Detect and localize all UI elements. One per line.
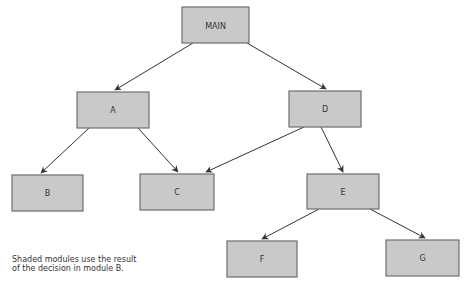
edge-main-a bbox=[115, 43, 193, 90]
module-b: B bbox=[12, 175, 83, 211]
edge-d-e bbox=[321, 127, 343, 172]
module-e-label: E bbox=[340, 188, 345, 197]
module-a: A bbox=[77, 92, 149, 128]
module-a-label: A bbox=[110, 106, 116, 115]
edge-e-f bbox=[262, 209, 319, 239]
edge-main-d bbox=[247, 43, 326, 89]
module-c: C bbox=[140, 174, 214, 210]
module-b-label: B bbox=[45, 189, 51, 198]
legend-note: Shaded modules use the result of the dec… bbox=[12, 255, 136, 273]
edge-e-g bbox=[370, 209, 425, 238]
edge-a-b bbox=[41, 128, 89, 173]
legend-note-line-1: Shaded modules use the result bbox=[12, 255, 136, 264]
module-g: G bbox=[386, 240, 459, 276]
module-d: D bbox=[289, 91, 361, 127]
edge-d-c bbox=[206, 127, 304, 172]
structure-chart: MAIN A D B C E F G bbox=[0, 0, 471, 288]
module-f: F bbox=[227, 241, 297, 277]
module-c-label: C bbox=[174, 188, 180, 197]
edge-a-c bbox=[138, 128, 178, 172]
module-main-label: MAIN bbox=[205, 22, 226, 31]
module-g-label: G bbox=[419, 254, 425, 263]
module-d-label: D bbox=[322, 105, 328, 114]
module-main: MAIN bbox=[182, 7, 249, 43]
legend-note-line-2: of the decision in module B. bbox=[12, 264, 136, 273]
module-e: E bbox=[307, 174, 379, 209]
module-f-label: F bbox=[260, 255, 265, 264]
